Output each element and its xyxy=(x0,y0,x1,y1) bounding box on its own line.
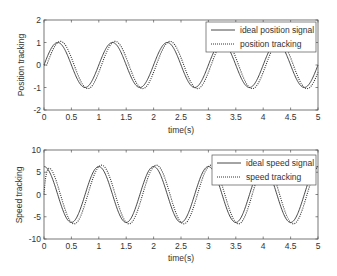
speed-xlabel: time(s) xyxy=(168,253,194,263)
x-tick-label: 5 xyxy=(316,241,321,251)
y-tick-label: 1 xyxy=(36,38,41,48)
x-tick-label: 3 xyxy=(206,112,211,122)
x-tick-label: 0 xyxy=(42,241,47,251)
x-tick-label: 4 xyxy=(261,241,266,251)
x-tick-label: 4.5 xyxy=(285,241,297,251)
figure: 00.511.522.533.544.55-2-1012 Position tr… xyxy=(0,0,337,276)
legend-label-ideal-position: ideal position signal xyxy=(240,25,314,35)
speed-plot: 00.511.522.533.544.55-10-50510 Speed tra… xyxy=(14,145,321,263)
legend-label-position-tracking: position tracking xyxy=(240,39,302,49)
position-ylabel: Position tracking xyxy=(16,34,26,97)
speed-legend: ideal speed signal speed tracking xyxy=(212,155,316,185)
position-xlabel: time(s) xyxy=(168,125,194,135)
x-tick-label: 2.5 xyxy=(175,241,187,251)
y-tick-label: 0 xyxy=(36,190,41,200)
x-tick-label: 2 xyxy=(151,112,156,122)
y-tick-label: -1 xyxy=(33,83,41,93)
position-plot: 00.511.522.533.544.55-2-1012 Position tr… xyxy=(16,15,321,135)
y-tick-label: -2 xyxy=(33,105,41,115)
x-tick-label: 3.5 xyxy=(230,112,242,122)
x-tick-label: 5 xyxy=(316,112,321,122)
speed-ylabel: Speed tracking xyxy=(14,166,24,223)
x-tick-label: 0.5 xyxy=(65,241,77,251)
y-tick-label: 2 xyxy=(36,15,41,25)
legend-label-speed-tracking: speed tracking xyxy=(246,172,302,182)
x-tick-label: 1 xyxy=(96,241,101,251)
x-tick-label: 1.5 xyxy=(120,241,132,251)
x-tick-label: 0.5 xyxy=(65,112,77,122)
y-tick-label: -5 xyxy=(33,212,41,222)
x-tick-label: 3 xyxy=(206,241,211,251)
y-tick-label: 0 xyxy=(36,60,41,70)
legend-label-ideal-speed: ideal speed signal xyxy=(246,158,314,168)
x-tick-label: 2 xyxy=(151,241,156,251)
x-tick-label: 1 xyxy=(96,112,101,122)
y-tick-label: -10 xyxy=(29,234,42,244)
position-legend: ideal position signal position tracking xyxy=(206,22,316,52)
y-tick-label: 10 xyxy=(32,145,42,155)
x-tick-label: 4 xyxy=(261,112,266,122)
x-tick-label: 0 xyxy=(42,112,47,122)
x-tick-label: 4.5 xyxy=(285,112,297,122)
y-tick-label: 5 xyxy=(36,167,41,177)
x-tick-label: 2.5 xyxy=(175,112,187,122)
x-tick-label: 3.5 xyxy=(230,241,242,251)
x-tick-label: 1.5 xyxy=(120,112,132,122)
